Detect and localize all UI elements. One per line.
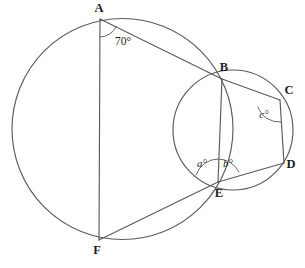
vertex-label-B: B xyxy=(220,60,228,74)
vertex-label-C: C xyxy=(284,83,293,97)
segment-BC xyxy=(222,79,280,100)
segment-AF xyxy=(99,19,100,240)
geometry-diagram: A B C D E F 70° a° b° c° xyxy=(0,0,305,268)
segment-AB xyxy=(100,19,222,79)
angle-label-b: b° xyxy=(223,157,234,169)
angle-label-70-degrees: 70° xyxy=(115,35,132,47)
segment-BE xyxy=(218,79,222,182)
geometry-canvas: A B C D E F 70° a° b° c° xyxy=(0,0,305,268)
segment-CD xyxy=(280,100,284,163)
angle-label-c: c° xyxy=(259,108,269,120)
segment-EF xyxy=(99,182,218,240)
vertex-label-F: F xyxy=(93,243,101,257)
vertex-label-D: D xyxy=(286,157,295,171)
large-circle xyxy=(12,19,233,240)
angle-arc-at-A xyxy=(100,26,116,37)
angle-label-a: a° xyxy=(197,157,208,169)
vertex-label-E: E xyxy=(215,186,223,200)
vertex-label-A: A xyxy=(94,1,103,15)
